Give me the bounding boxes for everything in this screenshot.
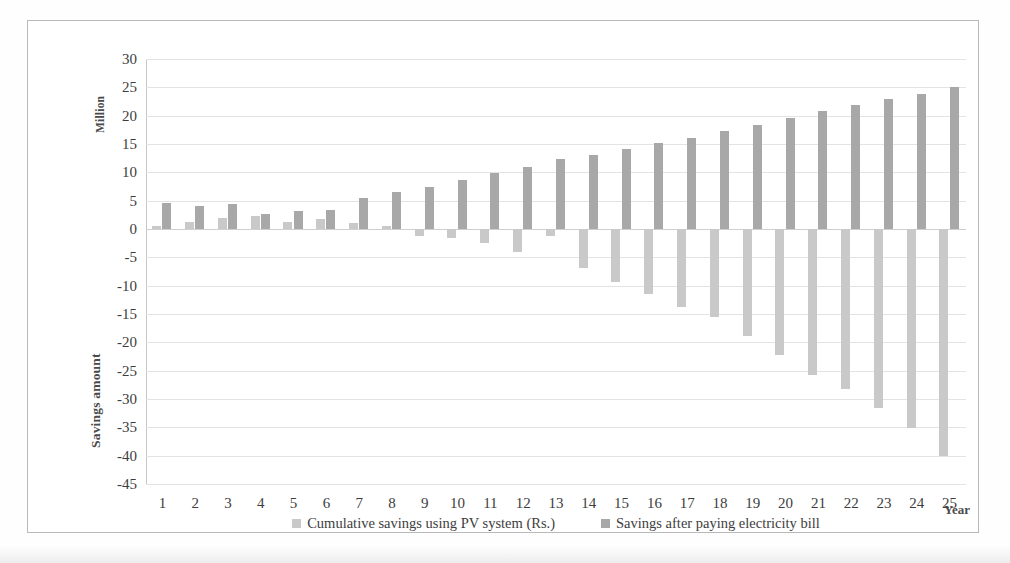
gridline [146,456,966,457]
bar [808,229,817,375]
bar [710,229,719,317]
x-axis-tick-label: 5 [290,496,298,511]
x-axis-tick-label: 2 [191,496,199,511]
x-axis-tick-label: 18 [713,496,728,511]
y-axis-tick-label: -15 [117,307,137,322]
bar [195,206,204,229]
bar [294,211,303,229]
y-axis-secondary-title: Million [94,96,106,133]
bar [546,229,555,236]
x-axis-tick-label: 13 [549,496,564,511]
y-axis-tick-label: 10 [122,165,137,180]
bar [228,204,237,229]
x-axis-tick-label: 8 [388,496,396,511]
bar [382,226,391,229]
bar [851,105,860,229]
x-axis-tick-label: 24 [909,496,924,511]
bar [677,229,686,307]
y-axis-tick-label: -10 [117,278,137,293]
bar [152,226,161,229]
y-axis-tick-label: -20 [117,335,137,350]
bar [349,223,358,229]
bar [251,216,260,229]
bar [326,210,335,229]
y-axis-tick-label: 30 [122,52,137,67]
gridline [146,427,966,428]
bar [556,159,565,229]
x-axis-tick-label: 16 [647,496,662,511]
bar [775,229,784,355]
chart-frame: Million Savings amount Year 302520151050… [27,20,979,533]
bar [513,229,522,252]
chart-legend: Cumulative savings using PV system (Rs.)… [146,515,966,532]
bar [458,180,467,229]
bar [622,149,631,229]
legend-label: Cumulative savings using PV system (Rs.) [307,515,555,532]
bar [589,155,598,229]
x-axis-tick-label: 23 [877,496,892,511]
x-axis-tick-label: 17 [680,496,695,511]
legend-item[interactable]: Cumulative savings using PV system (Rs.) [292,515,555,532]
bar [447,229,456,238]
bar [950,87,959,229]
x-axis-tick-label: 11 [483,496,497,511]
y-axis-title: Savings amount [88,353,104,448]
bar [359,198,368,229]
bar [687,138,696,229]
bar [490,173,499,229]
page-scan-edge [0,545,1010,563]
x-axis-tick-label: 21 [811,496,826,511]
x-axis-tick-label: 10 [450,496,465,511]
bar [316,219,325,229]
plot-canvas: 302520151050-5-10-15-20-25-30-35-40-4512… [146,59,966,484]
gridline [146,116,966,117]
y-axis-tick-label: -35 [117,420,137,435]
bar [480,229,489,243]
bar [818,111,827,229]
bar [523,167,532,229]
bar [283,222,292,229]
bar [841,229,850,389]
chart-page: Million Savings amount Year 302520151050… [0,0,1010,563]
x-axis-tick-label: 20 [778,496,793,511]
x-axis-tick-label: 12 [516,496,531,511]
bar [218,218,227,229]
x-axis-tick-label: 3 [224,496,232,511]
bar [786,118,795,229]
bar [185,222,194,229]
legend-swatch-icon [292,519,301,528]
bar [939,229,948,456]
bar [753,125,762,229]
bar [392,192,401,229]
plot-area: 302520151050-5-10-15-20-25-30-35-40-4512… [146,59,966,484]
bar [743,229,752,336]
legend-item[interactable]: Savings after paying electricity bill [601,515,820,532]
bar [654,143,663,229]
y-axis-tick-label: -25 [117,363,137,378]
gridline [146,484,966,485]
bar [261,214,270,229]
y-axis-tick-label: -5 [125,250,138,265]
bar [884,99,893,229]
y-axis-tick-label: -30 [117,392,137,407]
bar [644,229,653,294]
bar [415,229,424,236]
legend-swatch-icon [601,519,610,528]
gridline [146,87,966,88]
bar [917,94,926,229]
bar [611,229,620,282]
gridline [146,144,966,145]
y-axis-tick-label: 15 [122,137,137,152]
x-axis-tick-label: 14 [581,496,596,511]
x-axis-tick-label: 15 [614,496,629,511]
x-axis-tick-label: 25 [942,496,957,511]
gridline [146,399,966,400]
x-axis-tick-label: 7 [355,496,363,511]
bar [874,229,883,408]
bar [425,187,434,229]
x-axis-tick-label: 9 [421,496,429,511]
y-axis-tick-label: 25 [122,80,137,95]
x-axis-tick-label: 4 [257,496,265,511]
bar [720,131,729,229]
x-axis-tick-label: 22 [844,496,859,511]
